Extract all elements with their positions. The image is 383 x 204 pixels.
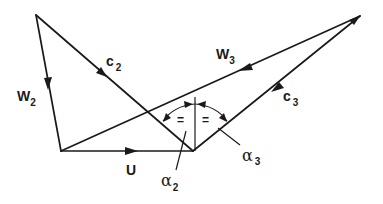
- label-c3: c3: [283, 88, 299, 108]
- label-alpha2: α2: [161, 171, 179, 193]
- label-u: U: [126, 162, 136, 178]
- arrow-u: [125, 147, 138, 155]
- arrow-arc-alpha3-start: [197, 101, 206, 108]
- arrow-arc-alpha2-start: [184, 101, 193, 108]
- vector-c3: [193, 16, 360, 151]
- equal-mark-right: =: [202, 113, 209, 127]
- diagram-canvas: = = W2 c2 W3 c3 U α2 α3: [0, 0, 383, 204]
- label-w2: W2: [17, 88, 36, 108]
- equal-mark-left: =: [177, 113, 184, 127]
- velocity-triangle-diagram: = = W2 c2 W3 c3 U α2 α3: [0, 0, 383, 204]
- leader-alpha3: [218, 128, 240, 145]
- arrow-w3: [238, 63, 253, 71]
- label-alpha3: α3: [242, 146, 261, 167]
- vector-c2: [36, 15, 193, 151]
- arrow-w2: [44, 77, 52, 90]
- label-c2: c2: [106, 53, 122, 73]
- label-w3: W3: [216, 46, 235, 66]
- vector-w3: [61, 16, 360, 151]
